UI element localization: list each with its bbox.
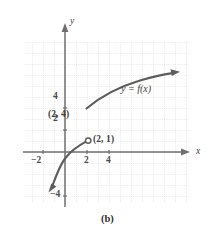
- y-axis-arrow-icon: [62, 23, 69, 32]
- x-axis-label: x: [196, 147, 200, 157]
- x-tick-label-2: 2: [84, 156, 89, 166]
- x-tick-label-neg2: −2: [31, 156, 41, 166]
- figure-panel: y x −2 2 4 2 4 −4 (2, 4) (2, 1) y = f(x)…: [0, 0, 221, 239]
- y-axis-label: y: [70, 17, 74, 27]
- function-label: y = f(x): [121, 84, 151, 94]
- grid-area: [24, 42, 189, 203]
- graph-canvas: [0, 0, 221, 239]
- y-tick-label-neg4: −4: [50, 190, 60, 200]
- annotation-point-2-4: (2, 4): [48, 110, 69, 120]
- x-tick-label-4: 4: [106, 156, 111, 166]
- y-tick-label-4: 4: [53, 92, 58, 102]
- figure-caption: (b): [101, 214, 114, 225]
- annotation-point-2-1: (2, 1): [93, 135, 114, 145]
- open-circle-marker-2-1: [86, 138, 91, 143]
